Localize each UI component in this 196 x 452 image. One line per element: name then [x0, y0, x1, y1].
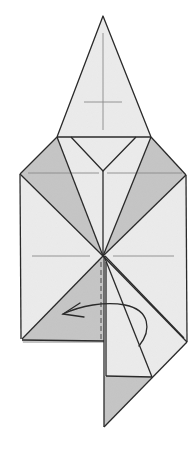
- top-point: [57, 16, 151, 137]
- origami-diagram: [0, 0, 196, 452]
